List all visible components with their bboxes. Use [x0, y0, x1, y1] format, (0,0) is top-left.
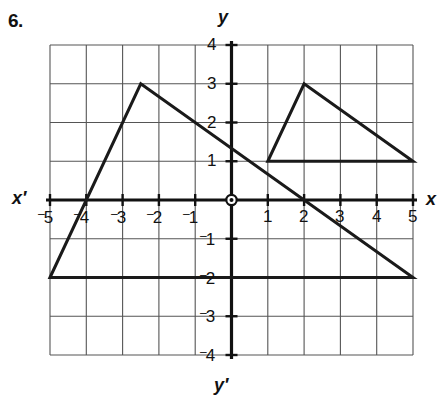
x-tick-label: 3 [335, 208, 344, 225]
tick-value: 2 [207, 113, 216, 132]
tick-value: 3 [206, 307, 215, 326]
x-tick-label: –1 [183, 208, 198, 226]
origin-marker [226, 195, 236, 205]
tick-value: 1 [189, 208, 198, 227]
tick-value: 3 [335, 207, 344, 226]
x-tick-label: 5 [408, 208, 417, 225]
tick-value: 2 [206, 269, 215, 288]
x-tick-label: 4 [372, 208, 381, 225]
tick-value: 3 [117, 208, 126, 227]
y-tick-label: 2 [207, 114, 216, 131]
x-tick-label: 2 [299, 208, 308, 225]
y-axis-label: y [218, 8, 228, 26]
y-tick-label: 1 [207, 152, 216, 169]
origin-dot [230, 198, 234, 202]
x-axis-label: x [426, 190, 436, 208]
tick-value: 2 [153, 208, 162, 227]
tick-value: 4 [206, 346, 215, 365]
tick-value: 2 [299, 207, 308, 226]
tick-value: 1 [206, 230, 215, 249]
tick-value: 5 [408, 207, 417, 226]
x-tick-label: –2 [147, 208, 162, 226]
x-tick-label: –5 [38, 208, 53, 226]
y-tick-label: 3 [207, 75, 216, 92]
x-tick-label: 1 [263, 208, 272, 225]
y-tick-label: –3 [200, 307, 215, 325]
y-tick-label: –2 [200, 269, 215, 287]
y-tick-label: 4 [207, 36, 216, 53]
x-prime-axis-label: x′ [12, 189, 26, 207]
tick-value: 1 [263, 207, 272, 226]
y-prime-axis-label: y′ [214, 376, 228, 394]
tick-value: 4 [80, 208, 89, 227]
y-tick-label: –1 [200, 230, 215, 248]
x-tick-label: –4 [74, 208, 89, 226]
y-tick-label: –4 [200, 346, 215, 364]
tick-value: 3 [207, 74, 216, 93]
tick-value: 4 [372, 207, 381, 226]
tick-value: 4 [207, 35, 216, 54]
tick-value: 5 [44, 208, 53, 227]
tick-value: 1 [207, 151, 216, 170]
x-tick-label: –3 [111, 208, 126, 226]
figure-root: 6. y y′ x x′ –5–4–3–2–112345 4321–1–2–3–… [0, 0, 448, 416]
